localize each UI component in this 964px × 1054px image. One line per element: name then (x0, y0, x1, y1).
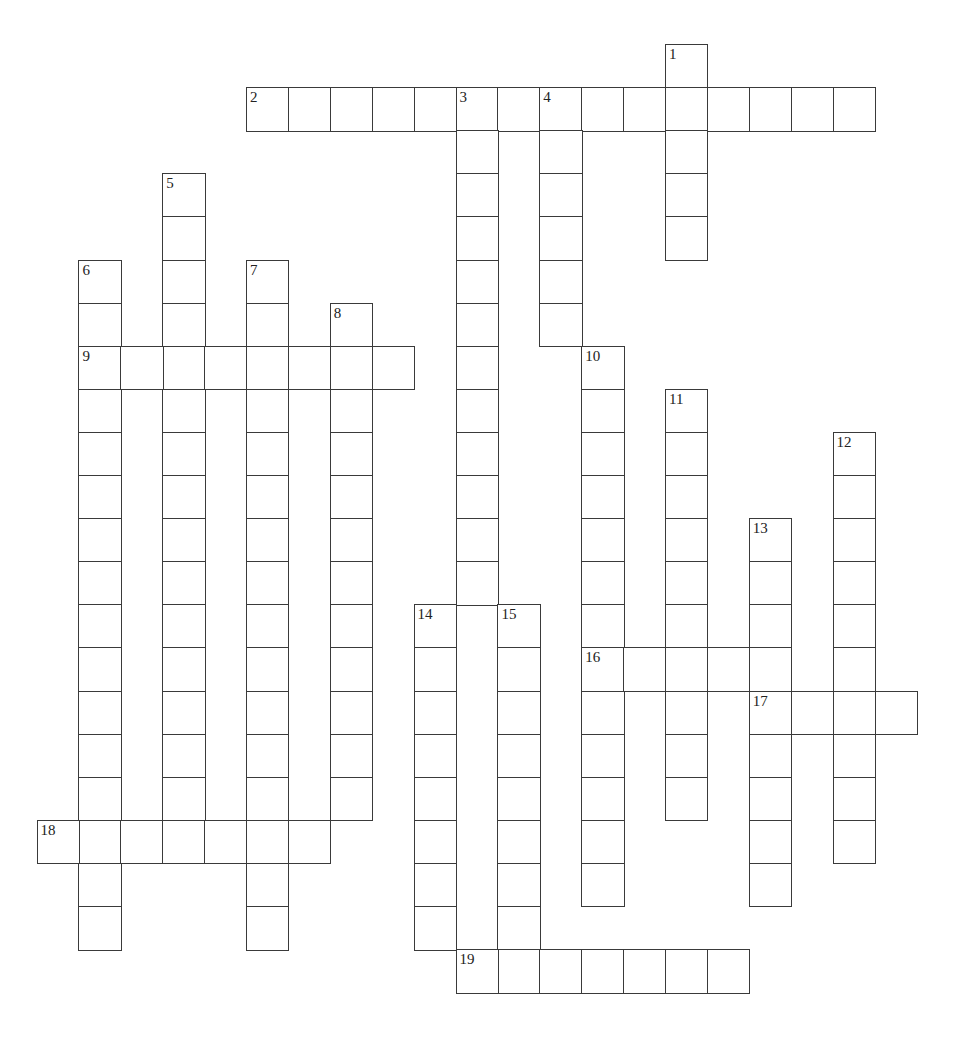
cell-letter-input[interactable] (750, 692, 791, 735)
crossword-cell[interactable] (539, 303, 582, 348)
crossword-cell[interactable] (120, 346, 163, 391)
crossword-cell[interactable] (749, 604, 792, 649)
cell-letter-input[interactable] (121, 347, 162, 390)
crossword-cell[interactable]: 8 (330, 303, 373, 348)
crossword-cell[interactable] (246, 777, 289, 822)
cell-letter-input[interactable] (289, 347, 330, 390)
cell-letter-input[interactable] (415, 864, 456, 907)
crossword-cell[interactable] (581, 949, 624, 994)
cell-letter-input[interactable] (582, 778, 623, 821)
cell-letter-input[interactable] (666, 950, 707, 993)
cell-letter-input[interactable] (121, 821, 162, 864)
cell-letter-input[interactable] (540, 88, 581, 131)
crossword-cell[interactable] (246, 432, 289, 477)
crossword-cell[interactable] (78, 561, 121, 606)
cell-letter-input[interactable] (457, 88, 498, 131)
crossword-cell[interactable] (665, 604, 708, 649)
cell-letter-input[interactable] (415, 907, 456, 950)
crossword-cell[interactable] (456, 130, 499, 175)
cell-letter-input[interactable] (247, 907, 288, 950)
crossword-cell[interactable] (78, 518, 121, 563)
crossword-cell[interactable] (749, 777, 792, 822)
cell-letter-input[interactable] (247, 261, 288, 304)
crossword-cell[interactable] (330, 647, 373, 692)
cell-letter-input[interactable] (373, 88, 414, 131)
cell-letter-input[interactable] (582, 347, 623, 390)
crossword-cell[interactable] (78, 691, 121, 736)
cell-letter-input[interactable] (79, 433, 120, 476)
crossword-cell[interactable] (78, 432, 121, 477)
cell-letter-input[interactable] (415, 821, 456, 864)
crossword-cell[interactable] (749, 734, 792, 779)
cell-letter-input[interactable] (750, 648, 791, 691)
crossword-cell[interactable] (414, 863, 457, 908)
crossword-cell[interactable] (456, 260, 499, 305)
crossword-cell[interactable]: 7 (246, 260, 289, 305)
cell-letter-input[interactable] (247, 735, 288, 778)
cell-letter-input[interactable] (415, 648, 456, 691)
crossword-cell[interactable] (246, 647, 289, 692)
cell-letter-input[interactable] (79, 907, 120, 950)
cell-letter-input[interactable] (79, 648, 120, 691)
cell-letter-input[interactable] (834, 821, 875, 864)
crossword-cell[interactable] (414, 820, 457, 865)
cell-letter-input[interactable] (750, 519, 791, 562)
crossword-cell[interactable] (833, 475, 876, 520)
crossword-cell[interactable] (288, 346, 331, 391)
crossword-cell[interactable] (833, 734, 876, 779)
crossword-cell[interactable] (78, 303, 121, 348)
cell-letter-input[interactable] (457, 433, 498, 476)
cell-letter-input[interactable] (750, 821, 791, 864)
cell-letter-input[interactable] (457, 347, 498, 390)
cell-letter-input[interactable] (331, 605, 372, 648)
crossword-cell[interactable] (246, 863, 289, 908)
crossword-cell[interactable] (665, 432, 708, 477)
cell-letter-input[interactable] (666, 390, 707, 433)
crossword-cell[interactable] (162, 777, 205, 822)
crossword-cell[interactable]: 9 (78, 346, 121, 391)
cell-letter-input[interactable] (415, 778, 456, 821)
crossword-cell[interactable] (581, 389, 624, 434)
crossword-cell[interactable] (456, 216, 499, 261)
crossword-cell[interactable] (78, 906, 121, 951)
crossword-cell[interactable] (414, 906, 457, 951)
cell-letter-input[interactable] (666, 45, 707, 88)
cell-letter-input[interactable] (247, 605, 288, 648)
cell-letter-input[interactable] (834, 735, 875, 778)
crossword-cell[interactable] (162, 475, 205, 520)
cell-letter-input[interactable] (331, 692, 372, 735)
crossword-cell[interactable] (162, 389, 205, 434)
cell-letter-input[interactable] (247, 390, 288, 433)
crossword-cell[interactable] (288, 87, 331, 132)
cell-letter-input[interactable] (582, 648, 623, 691)
cell-letter-input[interactable] (666, 131, 707, 174)
crossword-cell[interactable] (330, 604, 373, 649)
cell-letter-input[interactable] (289, 88, 330, 131)
crossword-cell[interactable] (204, 346, 247, 391)
crossword-cell[interactable] (497, 87, 540, 132)
cell-letter-input[interactable] (247, 778, 288, 821)
cell-letter-input[interactable] (666, 692, 707, 735)
cell-letter-input[interactable] (457, 476, 498, 519)
cell-letter-input[interactable] (163, 778, 204, 821)
cell-letter-input[interactable] (79, 778, 120, 821)
crossword-cell[interactable] (581, 475, 624, 520)
cell-letter-input[interactable] (582, 562, 623, 605)
crossword-cell[interactable] (833, 604, 876, 649)
crossword-cell[interactable] (497, 734, 540, 779)
crossword-cell[interactable] (497, 691, 540, 736)
crossword-cell[interactable] (707, 87, 750, 132)
crossword-cell[interactable] (539, 216, 582, 261)
crossword-cell[interactable] (330, 518, 373, 563)
cell-letter-input[interactable] (79, 562, 120, 605)
crossword-cell[interactable] (539, 949, 582, 994)
cell-letter-input[interactable] (331, 390, 372, 433)
crossword-cell[interactable] (78, 647, 121, 692)
crossword-cell[interactable] (581, 518, 624, 563)
cell-letter-input[interactable] (331, 778, 372, 821)
crossword-cell[interactable] (246, 303, 289, 348)
cell-letter-input[interactable] (331, 519, 372, 562)
cell-letter-input[interactable] (163, 562, 204, 605)
crossword-cell[interactable] (372, 87, 415, 132)
cell-letter-input[interactable] (415, 735, 456, 778)
